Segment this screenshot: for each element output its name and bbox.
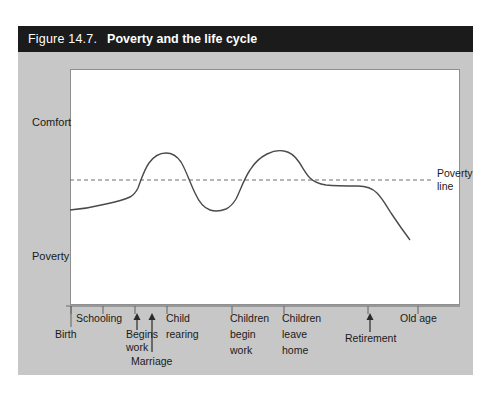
x-label-old-age: Old age [400,312,437,324]
x-label-begins-work-line2: work [125,341,149,353]
marriage-arrow-icon [149,313,156,320]
figure-title: Poverty and the life cycle [107,32,257,46]
retirement-arrow-icon [367,313,374,332]
x-label-schooling: Schooling [76,312,122,324]
x-label-children-begin-work-line2: begin [230,328,256,340]
figure-title-bar: Figure 14.7. Poverty and the life cycle [18,26,473,52]
x-label-retirement: Retirement [345,332,396,344]
x-label-child-rearing-line2: rearing [166,328,199,340]
figure-container: Figure 14.7. Poverty and the life cycle … [0,0,491,400]
x-label-children-begin-work-line1: Children [230,312,269,324]
x-label-children-begin-work-line3: work [229,344,253,356]
income-curve [70,151,410,240]
poverty-line-label-2: line [437,180,454,192]
x-label-children-leave-home-line2: leave [282,328,307,340]
x-label-marriage: Marriage [131,355,173,367]
x-label-child-rearing-line1: Child [166,312,190,324]
x-label-begins-work-line1: Begins [126,328,158,340]
y-axis-label-comfort: Comfort [32,116,71,128]
x-label-children-leave-home-line3: home [282,344,308,356]
x-label-children-leave-home-line1: Children [282,312,321,324]
poverty-line-label-1: Poverty [437,167,473,179]
life-cycle-chart: Comfort Poverty Poverty line [18,52,473,375]
figure-panel: Comfort Poverty Poverty line [18,52,473,375]
figure-number: Figure 14.7. [28,32,97,46]
x-label-birth: Birth [55,328,77,340]
y-axis-label-poverty: Poverty [32,250,70,262]
